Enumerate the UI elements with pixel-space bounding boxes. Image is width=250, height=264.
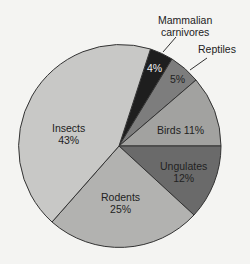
label-carnivores: Mammalian carnivores	[158, 14, 212, 38]
rodents-name: Rodents	[101, 191, 140, 203]
label-insects: Insects 43%	[52, 122, 85, 146]
rodents-pct: 25%	[101, 203, 140, 215]
pct-carnivores: 4%	[147, 62, 162, 74]
insects-name: Insects	[52, 122, 85, 134]
label-rodents: Rodents 25%	[101, 191, 140, 215]
label-birds: Birds 11%	[157, 124, 204, 136]
pie-chart	[0, 0, 250, 264]
carnivores-name2: carnivores	[158, 26, 212, 38]
ungulates-name: Ungulates	[160, 160, 207, 172]
ungulates-pct: 12%	[160, 172, 207, 184]
pct-reptiles: 5%	[170, 73, 185, 85]
label-ungulates: Ungulates 12%	[160, 160, 207, 184]
insects-pct: 43%	[52, 134, 85, 146]
label-reptiles: Reptiles	[198, 43, 236, 55]
carnivores-name1: Mammalian	[158, 14, 212, 26]
